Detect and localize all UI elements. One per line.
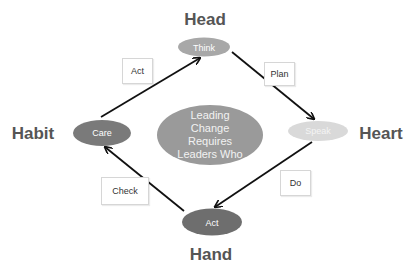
node-think-label: Think: [193, 42, 215, 52]
edge-label-check: Check: [101, 177, 149, 205]
center-line-3: Requires: [177, 135, 242, 148]
label-hand: Hand: [190, 245, 233, 265]
center-line-2: Change: [177, 122, 242, 135]
node-care-label: Care: [92, 128, 112, 138]
node-think: Think: [178, 38, 230, 57]
node-act-label: Act: [205, 217, 218, 227]
center-line-4: Leaders Who: [177, 148, 242, 161]
label-head: Head: [184, 10, 226, 30]
label-habit: Habit: [12, 124, 55, 144]
label-heart: Heart: [359, 124, 402, 144]
node-speak-label: Speak: [305, 126, 331, 136]
node-speak: Speak: [288, 121, 348, 141]
edge-label-act: Act: [122, 58, 153, 84]
center-ellipse: Leading Change Requires Leaders Who: [157, 105, 263, 165]
node-care: Care: [73, 120, 131, 146]
center-line-1: Leading: [177, 109, 242, 122]
edge-label-do: Do: [280, 170, 311, 196]
edge-label-plan: Plan: [264, 62, 295, 86]
node-act: Act: [182, 209, 242, 236]
